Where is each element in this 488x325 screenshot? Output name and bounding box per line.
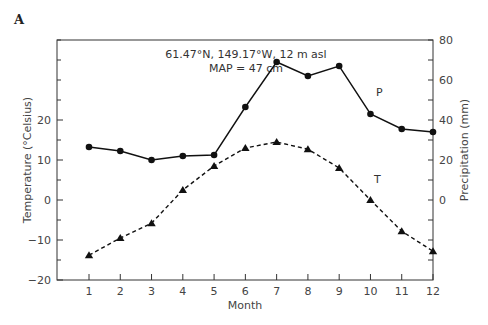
data-point-circle <box>86 144 93 151</box>
temperature-series-label: T <box>373 173 381 186</box>
x-tick-label: 7 <box>273 285 280 298</box>
x-tick-label: 8 <box>304 285 311 298</box>
x-axis-title: Month <box>228 299 263 312</box>
precipitation-series-label: P <box>376 86 383 99</box>
x-tick-label: 2 <box>117 285 124 298</box>
data-point-circle <box>148 157 155 164</box>
data-point-triangle <box>147 219 155 226</box>
data-point-circle <box>305 73 312 80</box>
right-tick-label: 80 <box>439 34 453 47</box>
left-axis-title: Temperature (°Celsius) <box>21 97 34 224</box>
data-point-triangle <box>272 138 280 145</box>
plot-frame <box>57 40 433 280</box>
data-point-circle <box>336 63 343 70</box>
data-point-circle <box>398 126 405 133</box>
x-tick-label: 6 <box>242 285 249 298</box>
x-tick-label: 10 <box>363 285 377 298</box>
data-point-triangle <box>241 144 249 151</box>
data-point-triangle <box>429 247 437 254</box>
data-point-circle <box>273 59 280 66</box>
left-tick-label: 20 <box>37 114 51 127</box>
right-tick-label: 60 <box>439 74 453 87</box>
data-point-triangle <box>85 251 93 258</box>
temperature-line <box>89 142 433 255</box>
x-tick-label: 4 <box>179 285 186 298</box>
right-tick-label: 0 <box>439 194 446 207</box>
data-point-circle <box>180 153 187 160</box>
x-tick-label: 9 <box>336 285 343 298</box>
left-tick-label: −10 <box>28 234 51 247</box>
x-tick-label: 3 <box>148 285 155 298</box>
data-point-triangle <box>116 234 124 241</box>
climate-chart: A −20−1001020 020406080 123456789101112 … <box>0 0 488 325</box>
data-point-circle <box>430 129 437 136</box>
precipitation-line <box>89 62 433 160</box>
left-tick-label: 0 <box>44 194 51 207</box>
x-tick-label: 1 <box>86 285 93 298</box>
right-tick-label: 40 <box>439 114 453 127</box>
data-point-circle <box>211 152 218 159</box>
panel-label: A <box>13 12 25 27</box>
data-point-triangle <box>398 227 406 234</box>
data-point-circle <box>242 104 249 111</box>
x-tick-label: 11 <box>395 285 409 298</box>
right-tick-label: 20 <box>439 154 453 167</box>
data-point-triangle <box>335 164 343 171</box>
data-point-circle <box>367 111 374 118</box>
x-tick-label: 5 <box>211 285 218 298</box>
right-axis-title: Precipitation (mm) <box>458 99 471 201</box>
x-tick-label: 12 <box>426 285 440 298</box>
left-tick-label: 10 <box>37 154 51 167</box>
data-point-triangle <box>210 162 218 169</box>
location-annotation: 61.47°N, 149.17°W, 12 m asl <box>165 48 326 61</box>
data-point-circle <box>117 148 124 155</box>
left-tick-label: −20 <box>28 274 51 287</box>
x-axis-ticks: 123456789101112 <box>86 274 441 298</box>
right-axis-ticks: 020406080 <box>428 34 453 260</box>
